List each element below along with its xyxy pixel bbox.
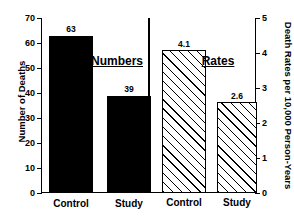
left-tick-mark bbox=[37, 43, 42, 44]
bar-value-label: 39 bbox=[124, 84, 133, 94]
left-tick-mark bbox=[37, 93, 42, 94]
right-tick-label: 4 bbox=[262, 49, 267, 58]
left-axis-title: Number of Deaths bbox=[16, 27, 27, 177]
bar-rates-panel-control: 4.1Control bbox=[162, 50, 206, 194]
x-tick-label: Control bbox=[166, 197, 202, 208]
left-tick-mark bbox=[37, 18, 42, 19]
left-tick-mark bbox=[37, 168, 42, 169]
panel-title-numbers: Numbers bbox=[91, 54, 143, 68]
left-tick-label: 50 bbox=[25, 64, 35, 73]
left-tick-mark bbox=[37, 68, 42, 69]
left-tick-label: 30 bbox=[25, 114, 35, 123]
right-tick-label: 0 bbox=[262, 189, 267, 198]
left-tick-mark bbox=[37, 193, 42, 194]
left-tick-label: 40 bbox=[25, 89, 35, 98]
left-tick-label: 60 bbox=[25, 39, 35, 48]
left-tick-label: 10 bbox=[25, 164, 35, 173]
right-tick-mark bbox=[255, 88, 260, 89]
bar-numbers-panel-control: 63Control bbox=[49, 36, 93, 194]
bar-rates-panel-study: 2.6Study bbox=[217, 102, 257, 193]
plot-area: 010203040506070 012345 63Control39Study4… bbox=[41, 18, 256, 193]
bar-value-label: 4.1 bbox=[178, 39, 190, 49]
left-tick-label: 70 bbox=[25, 14, 35, 23]
right-tick-label: 5 bbox=[262, 14, 267, 23]
left-tick-mark bbox=[37, 143, 42, 144]
right-tick-mark bbox=[255, 193, 260, 194]
right-tick-label: 1 bbox=[262, 154, 267, 163]
bar-numbers-panel-study: 39Study bbox=[107, 96, 151, 194]
x-tick-label: Study bbox=[223, 197, 251, 208]
right-tick-label: 2 bbox=[262, 119, 267, 128]
right-tick-mark bbox=[255, 18, 260, 19]
x-tick-label: Control bbox=[53, 198, 89, 209]
panel-title-rates: Rates bbox=[202, 54, 235, 68]
x-tick-label: Study bbox=[115, 198, 143, 209]
chart-figure: Number of Deaths Death Rates per 10,000 … bbox=[0, 0, 293, 224]
right-tick-label: 3 bbox=[262, 84, 267, 93]
left-tick-label: 0 bbox=[30, 189, 35, 198]
bar-value-label: 63 bbox=[66, 24, 75, 34]
bar-value-label: 2.6 bbox=[231, 91, 243, 101]
right-axis-title: Death Rates per 10,000 Person-Years bbox=[283, 21, 294, 191]
left-tick-label: 20 bbox=[25, 139, 35, 148]
right-tick-mark bbox=[255, 53, 260, 54]
left-tick-mark bbox=[37, 118, 42, 119]
left-axis-line bbox=[41, 18, 42, 193]
